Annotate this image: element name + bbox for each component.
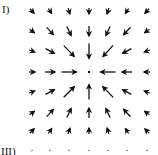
partial-arrow [31,150,33,151]
field-arrow [68,8,70,14]
field-arrow [144,91,150,93]
field-arrow [48,9,51,14]
field-arrow [48,129,51,134]
field-arrow [30,111,35,115]
field-arrow [30,29,35,33]
field-arrow [64,87,75,98]
field-arrow [125,129,128,134]
partial-arrow [146,150,148,151]
field-arrow [47,27,54,34]
field-arrow [67,109,71,118]
field-arrow [125,9,128,14]
field-arrow [30,129,34,133]
field-arrow [29,91,35,93]
field-arrow [103,45,113,56]
field-arrow [46,90,55,95]
field-arrow [144,50,150,52]
field-arrow [107,8,109,14]
field-arrow [46,49,55,54]
partial-arrow [107,150,109,151]
field-arrow [30,9,34,13]
field-arrow [68,128,70,134]
field-arrow [145,129,149,133]
field-arrow [107,128,109,134]
field-arrow [29,50,35,52]
field-arrow [123,90,132,95]
partial-arrow [88,150,90,151]
center-sink-dot [88,71,90,73]
field-arrow [145,9,149,13]
field-arrow [145,111,150,114]
vector-field-diagram [0,0,158,155]
field-arrow [47,109,54,116]
partial-arrow [49,150,51,151]
field-arrow [124,109,131,116]
field-arrow [103,87,113,98]
field-arrow [145,29,150,32]
field-arrow [67,27,71,36]
partial-arrow [68,150,70,151]
field-arrow [123,49,132,54]
field-arrow [124,27,131,34]
field-arrow [106,27,110,36]
partial-arrow [126,150,128,151]
field-arrow [64,46,74,57]
partial-arrow-row [31,150,148,151]
field-arrow [106,109,110,118]
